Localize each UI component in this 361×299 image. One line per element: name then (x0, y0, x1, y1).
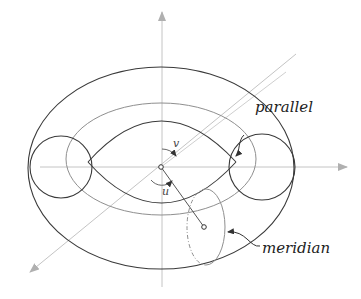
parallel-label: parallel (255, 98, 313, 116)
origin-point (159, 165, 164, 170)
surface-point (202, 225, 207, 230)
torus-diagram: parallel meridian v u (0, 0, 361, 299)
meridian-label: meridian (262, 239, 330, 257)
angle-u-label: u (162, 185, 169, 198)
direction-ray (161, 72, 286, 167)
meridian-front (206, 189, 225, 265)
angle-v-label: v (173, 137, 180, 150)
parallel-curve (66, 103, 256, 215)
angle-v-arc (162, 149, 176, 156)
